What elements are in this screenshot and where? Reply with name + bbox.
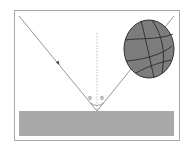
basketball (124, 20, 174, 78)
reflection-diagram: θ θ (0, 0, 190, 154)
diagram-canvas: θ θ (0, 0, 190, 154)
ground-surface (19, 111, 174, 136)
